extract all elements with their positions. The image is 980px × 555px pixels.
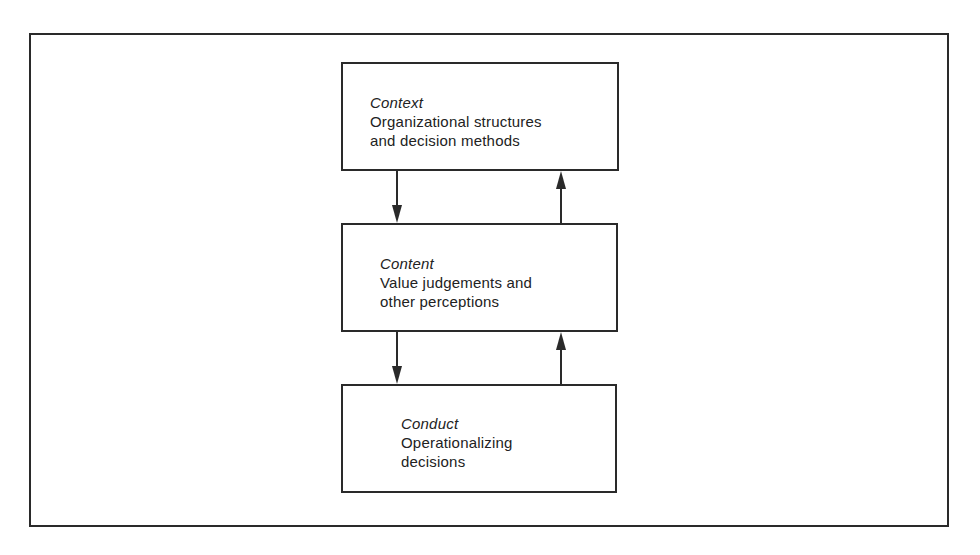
context-title: Context bbox=[370, 93, 542, 112]
context-label: Context Organizational structures and de… bbox=[370, 93, 542, 150]
conduct-label: Conduct Operationalizing decisions bbox=[401, 414, 513, 471]
content-box: Content Value judgements and other perce… bbox=[341, 223, 618, 332]
content-title: Content bbox=[380, 254, 532, 273]
conduct-box: Conduct Operationalizing decisions bbox=[341, 384, 617, 493]
context-box: Context Organizational structures and de… bbox=[341, 62, 619, 171]
conduct-title: Conduct bbox=[401, 414, 513, 433]
context-description: Organizational structures and decision m… bbox=[370, 112, 542, 150]
content-description: Value judgements and other perceptions bbox=[380, 273, 532, 311]
conduct-description: Operationalizing decisions bbox=[401, 433, 513, 471]
content-label: Content Value judgements and other perce… bbox=[380, 254, 532, 311]
